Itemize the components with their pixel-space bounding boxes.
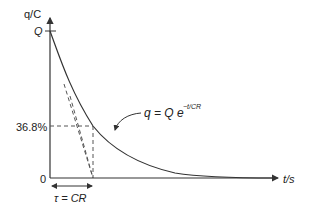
discharge-diagram: q/C Q 36.8% 0 t/s τ = CR q = Q e −t/CR	[0, 0, 313, 206]
decay-curve	[50, 31, 275, 178]
equation-exponent: −t/CR	[183, 103, 201, 110]
equation-main: q = Q e	[144, 107, 184, 119]
y-axis-label: q/C	[24, 8, 41, 20]
plot-area	[0, 0, 313, 206]
q-tick-label: Q	[34, 25, 43, 37]
tau-label: τ = CR	[54, 192, 87, 204]
tangent-line-2	[70, 96, 93, 178]
equation-pointer	[115, 113, 141, 130]
x-axis-label: t/s	[283, 173, 295, 185]
zero-label: 0	[40, 173, 46, 185]
pct-label: 36.8%	[16, 121, 47, 133]
